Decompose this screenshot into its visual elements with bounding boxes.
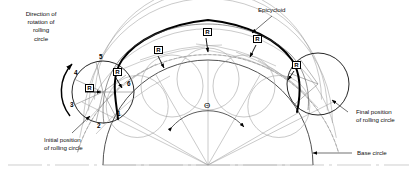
theta-angle-label: Θ — [204, 101, 210, 110]
final-position-line-2: of rolling circle — [356, 116, 395, 124]
radius-label-6: R — [292, 61, 301, 69]
division-number-2: 2 — [97, 122, 101, 129]
division-number-4: 4 — [74, 69, 78, 76]
direction-line-1: Direction of — [10, 10, 72, 18]
direction-line-3: rolling — [10, 26, 72, 34]
final-position-line-1: Final position — [356, 108, 395, 116]
final-position-label: Final position of rolling circle — [356, 108, 395, 124]
initial-position-line-2: of rolling circle — [44, 144, 83, 152]
rotation-direction-arrow — [61, 64, 72, 116]
radius-label-5: R — [253, 35, 262, 43]
radius-label-2: R — [113, 68, 122, 76]
initial-position-line-1: Initial position — [44, 136, 83, 144]
division-number-1: 1 — [117, 110, 121, 117]
direction-line-4: circle — [10, 35, 72, 43]
epicycloid-label: Epicycloid — [258, 6, 285, 14]
diagram-canvas: Direction of rotation of rolling circle … — [0, 0, 409, 177]
division-number-3: 3 — [70, 101, 74, 108]
direction-line-2: rotation of — [10, 18, 72, 26]
radius-label-4: R — [203, 28, 212, 36]
initial-position-label: Initial position of rolling circle — [44, 136, 83, 152]
direction-of-rotation-label: Direction of rotation of rolling circle — [10, 10, 72, 43]
division-number-6: 6 — [127, 80, 131, 87]
division-number-5: 5 — [99, 53, 103, 60]
construction-mesh — [86, 44, 318, 134]
radius-label-1: R — [85, 84, 94, 92]
radius-label-3: R — [154, 46, 163, 54]
base-circle-label: Base circle — [357, 149, 387, 157]
